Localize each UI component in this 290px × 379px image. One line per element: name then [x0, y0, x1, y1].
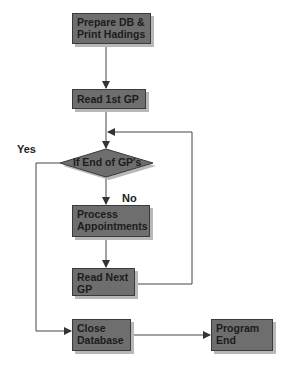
- node-end-line2: End: [216, 334, 268, 346]
- node-program-end: Program End: [211, 319, 273, 351]
- node-process-appointments: Process Appointments: [72, 205, 150, 237]
- node-process-line1: Process: [77, 208, 145, 220]
- node-prepare-db-line2: Print Hadings: [77, 28, 146, 40]
- decision-label: If End of GP's: [73, 156, 141, 168]
- edge-label-yes: Yes: [17, 143, 36, 155]
- node-end-line1: Program: [216, 322, 268, 334]
- node-prepare-db-line1: Prepare DB &: [77, 16, 146, 28]
- node-process-line2: Appointments: [77, 220, 145, 232]
- node-read-first-gp: Read 1st GP: [72, 89, 146, 109]
- node-close-line2: Database: [77, 334, 126, 346]
- node-close-database: Close Database: [72, 319, 131, 351]
- node-read-next-gp: Read Next GP: [72, 268, 135, 296]
- node-close-line1: Close: [77, 322, 126, 334]
- node-read-first-gp-label: Read 1st GP: [77, 93, 141, 105]
- node-prepare-db: Prepare DB & Print Hadings: [72, 13, 151, 44]
- edge-label-no: No: [122, 192, 137, 204]
- node-read-next-line2: GP: [77, 283, 130, 295]
- node-read-next-line1: Read Next: [77, 271, 130, 283]
